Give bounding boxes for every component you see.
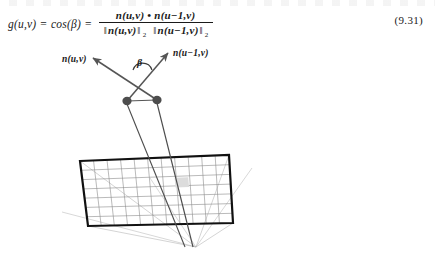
- mesh-grid-line-vertical: [215, 156, 219, 223]
- mesh-grid-line-horizontal: [87, 213, 233, 216]
- projection-ray: [196, 223, 233, 247]
- mesh-grid-line-vertical: [107, 160, 114, 225]
- normal-vector-label-left: n(u,v): [62, 54, 87, 64]
- mesh-grid-line-vertical: [121, 160, 128, 226]
- vertex-dot: [122, 97, 131, 105]
- mesh-grid-lines: [81, 156, 232, 226]
- mesh-grid-line-vertical: [188, 157, 193, 223]
- vertex-dot: [152, 96, 161, 104]
- angle-arc-beta: [133, 63, 152, 70]
- normal-left-args: (u,v): [67, 54, 86, 64]
- projection-ray: [196, 168, 252, 247]
- normal-vector-diagram: [0, 0, 435, 257]
- projection-ray-group: [62, 155, 252, 247]
- projection-ray: [196, 155, 229, 247]
- mesh-grid-line-vertical: [94, 161, 102, 226]
- mesh-grid-line-horizontal: [86, 204, 232, 208]
- mesh-grid-line-vertical: [134, 159, 141, 225]
- normal-vector-label-right: n(u−1,v): [173, 48, 209, 58]
- angle-label-beta: β: [137, 57, 142, 68]
- normal-right-args: (u−1,v): [178, 48, 208, 58]
- mesh-grid-line-vertical: [202, 157, 207, 224]
- figure-page: g(u,v) = cos(β) = n(u,v)•n(u−1,v) ‖n(u,v…: [0, 0, 435, 257]
- mesh-grid-line-horizontal: [81, 165, 230, 171]
- mesh-grid-line-horizontal: [85, 194, 232, 198]
- projection-ray: [88, 226, 196, 247]
